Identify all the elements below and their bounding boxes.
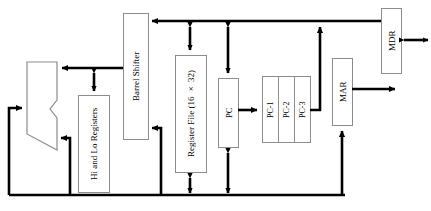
wire-left-bus-to-alu [9, 108, 22, 195]
block-pc-3 [295, 77, 311, 143]
block-hi-lo [79, 96, 110, 193]
cpu-datapath-diagram: Barrel Shifter Register File (16 × 32) H… [0, 0, 431, 211]
diagram-canvas [0, 0, 431, 211]
block-mar [333, 59, 353, 126]
block-pc-1 [263, 77, 279, 143]
wire-pc3-to-top-bus [310, 27, 320, 110]
block-register-file [176, 56, 207, 173]
block-barrel-shifter [124, 14, 149, 140]
block-pc-2 [279, 77, 295, 143]
wire-bottom-to-barrel [152, 128, 161, 195]
block-alu [27, 62, 57, 150]
block-mdr [382, 9, 402, 74]
block-outlines [79, 9, 402, 193]
wire-bottom-to-alu-b [61, 138, 70, 195]
block-pc [219, 79, 239, 148]
